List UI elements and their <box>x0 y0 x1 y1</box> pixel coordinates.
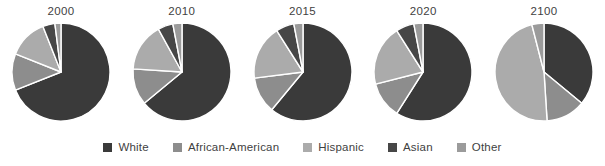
pie-chart <box>131 21 233 123</box>
legend-label: African-American <box>188 141 279 154</box>
pie-chart-year-label: 2000 <box>48 4 75 18</box>
legend-swatch-icon <box>303 143 312 152</box>
legend-swatch-icon <box>173 143 182 152</box>
legend-label: White <box>118 141 148 154</box>
pie-chart-year-label: 2010 <box>168 4 195 18</box>
pie-chart <box>10 21 112 123</box>
pie-chart-year-label: 2020 <box>410 4 437 18</box>
pie-chart-panel: 2000 <box>4 0 118 123</box>
legend-item[interactable]: African-American <box>173 141 279 154</box>
legend-item[interactable]: Asian <box>388 141 433 154</box>
legend-swatch-icon <box>457 143 466 152</box>
pie-chart <box>252 21 354 123</box>
legend-swatch-icon <box>388 143 397 152</box>
legend-label: Hispanic <box>318 141 364 154</box>
pie-chart-panel: 2100 <box>487 0 601 123</box>
pie-chart-panel: 2020 <box>366 0 480 123</box>
pie-chart <box>372 21 474 123</box>
pie-chart-figure: 20002010201520202100 WhiteAfrican-Americ… <box>0 0 605 166</box>
legend-item[interactable]: White <box>103 141 148 154</box>
pie-chart-row: 20002010201520202100 <box>0 0 605 136</box>
pie-chart-year-label: 2015 <box>289 4 316 18</box>
legend-item[interactable]: Hispanic <box>303 141 364 154</box>
chart-legend: WhiteAfrican-AmericanHispanicAsianOther <box>0 141 605 154</box>
legend-label: Asian <box>403 141 433 154</box>
pie-chart-panel: 2015 <box>246 0 360 123</box>
legend-item[interactable]: Other <box>457 141 502 154</box>
pie-chart-year-label: 2100 <box>531 4 558 18</box>
legend-swatch-icon <box>103 143 112 152</box>
pie-chart <box>493 21 595 123</box>
pie-chart-panel: 2010 <box>125 0 239 123</box>
legend-label: Other <box>472 141 502 154</box>
